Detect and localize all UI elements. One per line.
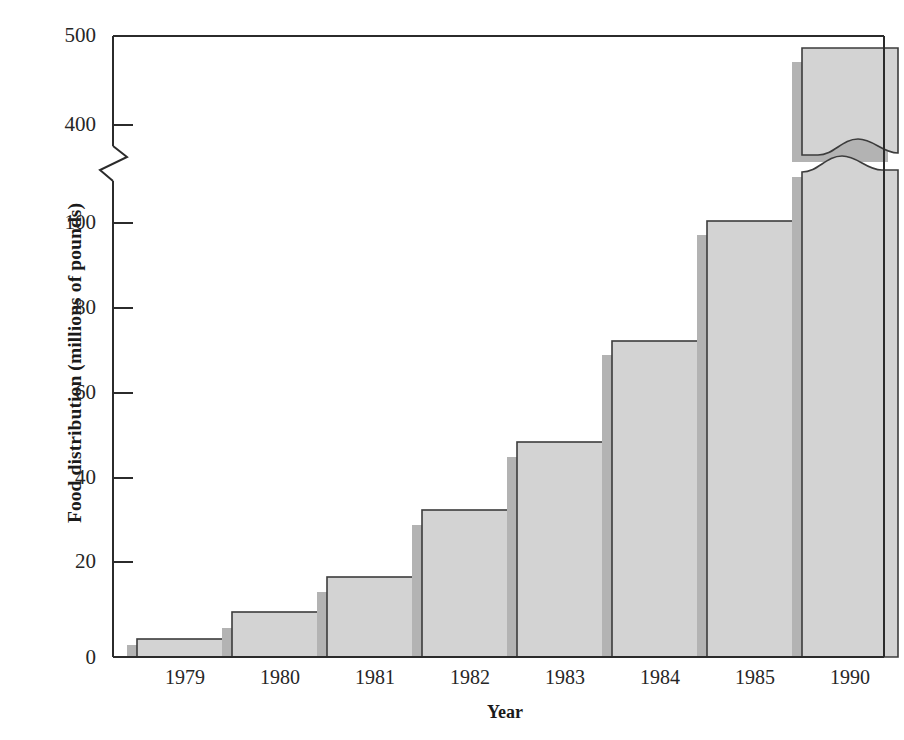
bar-1981: [317, 577, 423, 657]
x-tick-label-1983: 1983: [517, 666, 613, 689]
plot-area: [0, 0, 904, 740]
bar-1990: [792, 48, 898, 657]
x-tick-label-1979: 1979: [137, 666, 233, 689]
x-tick-label-1980: 1980: [232, 666, 328, 689]
bar-1983: [507, 442, 613, 657]
bar-1984: [602, 341, 708, 657]
x-tick-label-1982: 1982: [422, 666, 518, 689]
bar-1985: [697, 221, 803, 657]
x-tick-label-1981: 1981: [327, 666, 423, 689]
x-tick-label-1985: 1985: [707, 666, 803, 689]
chart-figure: Food distribution (millions of pounds) 5…: [0, 0, 904, 740]
x-tick-label-1990: 1990: [802, 666, 898, 689]
y-axis-break-marker: [100, 146, 127, 181]
bar-1980: [222, 612, 328, 657]
x-axis-label: Year: [110, 702, 900, 723]
bar-1979: [127, 639, 233, 657]
bar-1982: [412, 510, 518, 657]
x-tick-label-1984: 1984: [612, 666, 708, 689]
